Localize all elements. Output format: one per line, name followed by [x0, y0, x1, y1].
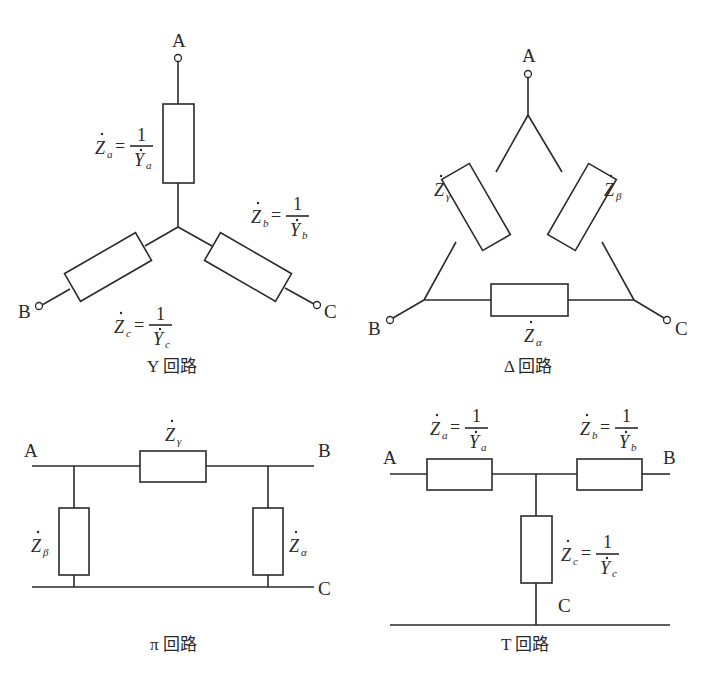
- pi-impedance-zalpha: [253, 508, 283, 575]
- svg-text:b: b: [592, 429, 598, 441]
- svg-text:β: β: [615, 190, 622, 202]
- delta-terminal-a-label: A: [522, 45, 536, 66]
- t-circuit-caption: T 回路: [501, 635, 549, 654]
- delta-impedance-zgamma: [442, 163, 511, 250]
- y-impedance-za: [163, 104, 194, 183]
- y-terminal-c: [314, 302, 321, 309]
- svg-text:Y: Y: [600, 558, 612, 578]
- svg-text:a: a: [146, 159, 152, 171]
- delta-label-zalpha: Z α: [524, 321, 542, 348]
- svg-text:1: 1: [156, 304, 165, 324]
- pi-label-zalpha: Z α: [289, 531, 307, 558]
- svg-text:b: b: [263, 217, 269, 229]
- y-label-zc: Z c = 1 Y c: [114, 304, 172, 350]
- svg-text:Z: Z: [524, 326, 535, 346]
- delta-impedance-zbeta: [548, 163, 617, 250]
- svg-text:γ: γ: [446, 190, 451, 202]
- svg-text:Z: Z: [580, 419, 591, 439]
- svg-text:α: α: [301, 546, 307, 558]
- svg-text:β: β: [42, 546, 49, 558]
- svg-text:Z: Z: [165, 425, 176, 445]
- delta-circuit-caption: Δ 回路: [504, 357, 552, 376]
- svg-text:c: c: [612, 567, 617, 579]
- y-circuit-caption: Y 回路: [147, 357, 197, 376]
- delta-terminal-b-label: B: [368, 318, 381, 339]
- y-impedance-zb: [204, 233, 291, 302]
- pi-terminal-b-label: B: [318, 440, 331, 461]
- y-label-zb: Z b = 1 Y b: [251, 194, 309, 241]
- circuit-figure: A B C Z a = 1 Y a: [0, 0, 708, 677]
- svg-text:a: a: [442, 429, 448, 441]
- svg-text:Z: Z: [430, 419, 441, 439]
- pi-impedance-zbeta: [59, 508, 89, 575]
- svg-text:1: 1: [472, 406, 481, 426]
- svg-text:Z: Z: [31, 536, 42, 556]
- svg-text:b: b: [302, 229, 308, 241]
- y-terminal-a: [175, 55, 182, 62]
- t-label-zb: Z b = 1 Y b: [580, 406, 638, 453]
- pi-terminal-a-label: A: [24, 440, 38, 461]
- pi-terminal-c-label: C: [318, 578, 331, 599]
- t-impedance-za: [427, 459, 492, 490]
- svg-text:Y: Y: [469, 432, 481, 452]
- svg-text:1: 1: [622, 406, 631, 426]
- svg-text:Y: Y: [290, 220, 302, 240]
- svg-text:c: c: [573, 555, 578, 567]
- svg-text:c: c: [126, 327, 131, 339]
- svg-text:α: α: [536, 336, 542, 348]
- y-terminal-a-label: A: [172, 30, 186, 51]
- t-circuit: A B C Z a = 1 Y a Z b = 1: [383, 406, 676, 654]
- svg-text:1: 1: [293, 194, 302, 214]
- svg-text:=: =: [450, 417, 460, 437]
- t-terminal-b-label: B: [663, 447, 676, 468]
- svg-text:Z: Z: [561, 545, 572, 565]
- delta-impedance-zalpha: [491, 284, 568, 316]
- svg-text:Z: Z: [604, 180, 615, 200]
- t-label-zc: Z c = 1 Y c: [561, 532, 619, 579]
- delta-circuit: A B C Z γ Z β: [368, 45, 688, 376]
- y-terminal-b: [36, 303, 43, 310]
- svg-text:=: =: [134, 315, 144, 335]
- t-terminal-c-label: C: [558, 595, 571, 616]
- svg-text:Z: Z: [95, 138, 106, 158]
- t-impedance-zb: [577, 459, 642, 490]
- svg-text:1: 1: [137, 125, 146, 145]
- svg-text:=: =: [600, 417, 610, 437]
- svg-text:1: 1: [603, 532, 612, 552]
- delta-terminal-a: [525, 71, 532, 78]
- pi-label-zgamma: Z γ: [165, 420, 182, 447]
- svg-text:Z: Z: [289, 536, 300, 556]
- svg-text:=: =: [271, 205, 281, 225]
- svg-text:b: b: [631, 441, 637, 453]
- svg-text:γ: γ: [177, 435, 182, 447]
- y-circuit: A B C Z a = 1 Y a: [18, 30, 337, 376]
- t-label-za: Z a = 1 Y a: [430, 406, 488, 453]
- delta-terminal-b: [387, 317, 394, 324]
- svg-text:=: =: [115, 136, 125, 156]
- pi-circuit: A B C Z γ Z β Z α π 回路: [24, 420, 331, 654]
- svg-text:=: =: [581, 543, 591, 563]
- svg-text:Y: Y: [619, 432, 631, 452]
- pi-circuit-caption: π 回路: [150, 635, 197, 654]
- svg-text:Z: Z: [114, 317, 125, 337]
- t-impedance-zc: [521, 516, 552, 583]
- svg-text:Z: Z: [251, 207, 262, 227]
- svg-text:Y: Y: [134, 150, 146, 170]
- delta-terminal-c-label: C: [675, 318, 688, 339]
- svg-text:a: a: [481, 441, 487, 453]
- y-terminal-b-label: B: [18, 301, 31, 322]
- delta-terminal-c: [664, 317, 671, 324]
- y-label-za: Z a = 1 Y a: [95, 125, 153, 171]
- svg-text:c: c: [165, 338, 170, 350]
- t-terminal-a-label: A: [383, 447, 397, 468]
- svg-text:Z: Z: [434, 180, 445, 200]
- pi-label-zbeta: Z β: [31, 531, 49, 558]
- svg-text:Y: Y: [153, 329, 165, 349]
- svg-text:a: a: [107, 148, 113, 160]
- y-impedance-zc: [64, 233, 151, 302]
- y-terminal-c-label: C: [324, 301, 337, 322]
- pi-impedance-zgamma: [140, 451, 206, 482]
